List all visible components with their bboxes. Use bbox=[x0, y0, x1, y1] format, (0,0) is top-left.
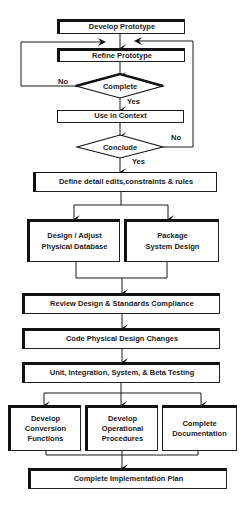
design-adjust-db-box: Design / Adjust Physical Database bbox=[27, 219, 120, 262]
use-in-context-box: Use in Context bbox=[57, 110, 184, 123]
conclude-no-label: No bbox=[171, 133, 181, 142]
develop-prototype-box: Develop Prototype bbox=[57, 19, 185, 34]
define-detail-box: Define detail edits,constraints & rules bbox=[33, 172, 217, 192]
testing-box: Unit, Integration, System, & Beta Testin… bbox=[22, 362, 220, 383]
package-system-box: Package System Design bbox=[124, 219, 219, 262]
refine-prototype-box: Refine Prototype bbox=[57, 48, 185, 62]
complete-decision-label: Complete bbox=[90, 82, 150, 91]
code-changes-box: Code Physical Design Changes bbox=[22, 328, 220, 349]
review-design-box: Review Design & Standards Compliance bbox=[22, 293, 220, 314]
conclude-yes-label: Yes bbox=[132, 157, 145, 166]
develop-operational-box: Develop Operational Procedures bbox=[85, 405, 158, 451]
complete-no-label: No bbox=[58, 77, 68, 86]
complete-plan-box: Complete Implementation Plan bbox=[28, 468, 227, 489]
develop-conversion-box: Develop Conversion Functions bbox=[8, 405, 81, 451]
complete-documentation-box: Complete Documentation bbox=[162, 405, 237, 451]
complete-yes-label: Yes bbox=[127, 97, 140, 106]
conclude-decision-label: Conclude bbox=[90, 143, 150, 152]
